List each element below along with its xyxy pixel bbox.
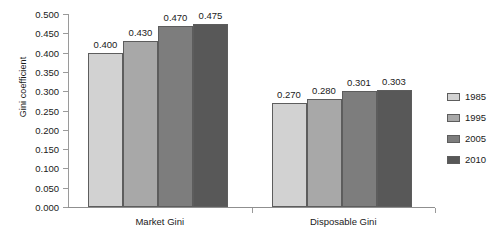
legend-item-2010[interactable]: 2010 — [447, 151, 490, 168]
bar-value-label: 0.475 — [199, 10, 223, 21]
y-axis-tick-label: 0.150 — [13, 144, 59, 155]
y-axis-tick-label: 0.250 — [13, 105, 59, 116]
y-axis-tick-label: 0.050 — [13, 182, 59, 193]
legend-swatch-icon — [447, 93, 460, 101]
legend-swatch-icon — [447, 114, 460, 122]
bar-value-label: 0.430 — [129, 27, 153, 38]
x-axis-category-label: Disposable Gini — [310, 216, 377, 227]
bar — [272, 103, 307, 207]
chart-legend: 1985199520052010 — [447, 88, 490, 172]
legend-swatch-icon — [447, 156, 460, 164]
legend-item-label: 2005 — [465, 133, 486, 144]
legend-swatch-icon — [447, 135, 460, 143]
bar-value-label: 0.270 — [277, 89, 301, 100]
bar — [307, 99, 342, 207]
bar — [158, 26, 193, 207]
y-axis-tick-label: 0.450 — [13, 28, 59, 39]
y-axis-tick-label: 0.100 — [13, 163, 59, 174]
bar-value-label: 0.470 — [164, 12, 188, 23]
gini-coefficient-bar-chart: Gini coefficient 0.5000.4500.4000.3500.3… — [0, 0, 490, 242]
legend-item-1995[interactable]: 1995 — [447, 109, 490, 126]
y-axis-tick-label: 0.400 — [13, 47, 59, 58]
y-axis-tick-labels: 0.5000.4500.4000.3500.3000.2500.2000.150… — [13, 0, 59, 242]
bar — [193, 24, 228, 207]
bar-value-label: 0.280 — [312, 85, 336, 96]
legend-item-2005[interactable]: 2005 — [447, 130, 490, 147]
legend-item-label: 1995 — [465, 112, 486, 123]
y-axis-tick-label: 0.350 — [13, 66, 59, 77]
y-axis-tick-label: 0.300 — [13, 86, 59, 97]
y-axis-tick-label: 0.200 — [13, 124, 59, 135]
x-axis-separator-tick — [252, 208, 253, 213]
bar-value-label: 0.400 — [94, 39, 118, 50]
bar-value-label: 0.301 — [347, 77, 371, 88]
y-axis-tick-label: 0.000 — [13, 202, 59, 213]
plot-area — [68, 14, 435, 207]
bar — [342, 91, 377, 207]
x-axis-separator-tick — [435, 208, 436, 213]
legend-item-1985[interactable]: 1985 — [447, 88, 490, 105]
bar-value-label: 0.303 — [382, 76, 406, 87]
bar — [377, 90, 412, 207]
bar — [123, 41, 158, 207]
bar — [88, 53, 123, 207]
legend-item-label: 1985 — [465, 91, 486, 102]
legend-item-label: 2010 — [465, 154, 486, 165]
x-axis-category-label: Market Gini — [135, 216, 184, 227]
y-axis-tick-label: 0.500 — [13, 9, 59, 20]
